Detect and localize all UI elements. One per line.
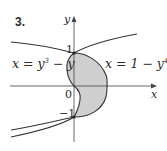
y-axis-arrow-icon — [72, 16, 77, 22]
cubic-eq-base: x = y — [12, 56, 45, 71]
problem-number: 3. — [15, 16, 25, 28]
area-between-curves-figure: 3. y x 1 0 −1 x = y3 − y x = 1 − y4 — [0, 0, 167, 151]
quartic-eq-base: x = 1 − y — [105, 56, 164, 71]
quartic-equation-label: x = 1 − y4 — [105, 58, 167, 71]
tick-y-1: 1 — [66, 44, 73, 55]
curve-quartic-upper-left — [11, 42, 74, 53]
quartic-eq-exponent: 4 — [164, 57, 167, 65]
plot-canvas — [0, 0, 167, 151]
cubic-equation-label: x = y3 − y — [12, 58, 75, 71]
y-axis-label: y — [64, 14, 70, 25]
cubic-eq-tail: − y — [49, 56, 74, 71]
x-axis-label: x — [151, 89, 157, 100]
tick-y-neg1: −1 — [59, 108, 75, 119]
tick-origin: 0 — [65, 89, 72, 100]
